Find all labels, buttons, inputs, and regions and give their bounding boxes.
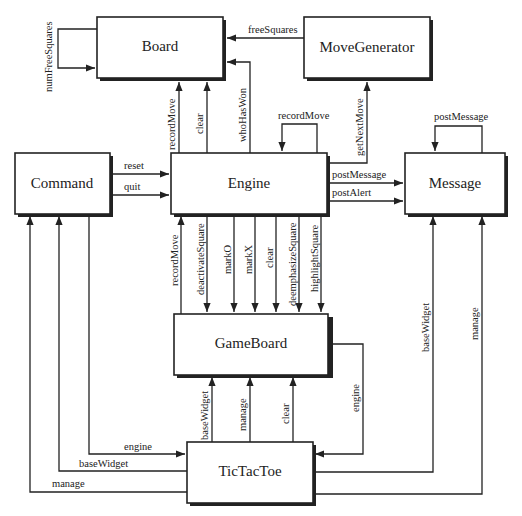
edge-movegen-board-freesquares: freeSquares [227, 24, 304, 38]
svg-text:recordMove: recordMove [278, 110, 330, 121]
svg-text:recordMove: recordMove [166, 98, 177, 150]
svg-text:manage: manage [237, 398, 248, 431]
edge-engine-board-clear: clear [194, 82, 207, 153]
edge-engine-movegen-getnextmove: getNextMove [327, 82, 367, 163]
edge-tictactoe-gameboard-basewidget: baseWidget [199, 377, 212, 442]
svg-text:getNextMove: getNextMove [354, 98, 365, 156]
edge-engine-gameboard-clear: clear [264, 214, 276, 312]
svg-text:baseWidget: baseWidget [79, 458, 128, 469]
node-message: Message [405, 153, 508, 217]
svg-text:clear: clear [280, 403, 291, 424]
node-tictactoe: TicTacToe [187, 442, 316, 506]
svg-text:baseWidget: baseWidget [199, 391, 210, 440]
edge-tictactoe-gameboard-clear: clear [280, 377, 293, 442]
svg-text:numFreeSquares: numFreeSquares [43, 21, 54, 92]
svg-text:highlightSquare: highlightSquare [309, 225, 320, 292]
svg-text:Command: Command [31, 175, 94, 191]
edge-engine-gameboard-deactivatesquare: deactivateSquare [195, 214, 207, 312]
collaboration-diagram: numFreeSquares freeSquares recordMove cl… [0, 0, 522, 516]
svg-text:Board: Board [142, 38, 179, 54]
svg-text:engine: engine [124, 441, 152, 452]
svg-text:reset: reset [124, 160, 144, 171]
edge-board-numfreesquares: numFreeSquares [43, 21, 97, 92]
svg-text:postAlert: postAlert [332, 187, 371, 198]
edge-tictactoe-gameboard-manage: manage [237, 377, 250, 442]
svg-text:Message: Message [429, 175, 482, 191]
edge-engine-message-postmessage: postMessage [327, 169, 403, 183]
node-board: Board [97, 17, 226, 81]
svg-text:markX: markX [243, 244, 254, 274]
svg-text:clear: clear [264, 247, 275, 268]
node-engine: Engine [171, 153, 330, 217]
svg-text:clear: clear [194, 113, 205, 134]
svg-text:whoHasWon: whoHasWon [237, 87, 248, 142]
node-gameboard: GameBoard [174, 314, 333, 378]
svg-text:MoveGenerator: MoveGenerator [320, 39, 415, 55]
edge-message-postmessage-self: postMessage [434, 111, 489, 153]
node-command: Command [15, 153, 113, 217]
svg-text:engine: engine [350, 384, 361, 412]
svg-text:Engine: Engine [228, 175, 271, 191]
edge-tictactoe-message-manage: manage [313, 216, 482, 494]
svg-text:GameBoard: GameBoard [215, 335, 288, 351]
svg-text:manage: manage [469, 307, 480, 340]
svg-text:deemphasizeSquare: deemphasizeSquare [287, 222, 298, 306]
svg-text:baseWidget: baseWidget [420, 303, 431, 352]
edge-command-engine-quit: quit [110, 181, 169, 195]
svg-text:TicTacToe: TicTacToe [218, 463, 282, 479]
edge-engine-board-recordmove: recordMove [166, 82, 179, 153]
edge-engine-board-whohaswon: whoHasWon [227, 62, 250, 153]
edge-tictactoe-command-manage: manage [30, 216, 187, 492]
edge-engine-message-postalert: postAlert [327, 187, 403, 201]
svg-text:quit: quit [124, 181, 140, 192]
edge-engine-gameboard-marko: markO [222, 214, 234, 312]
svg-text:deactivateSquare: deactivateSquare [195, 223, 206, 295]
edge-engine-gameboard-highlightsquare: highlightSquare [309, 214, 321, 312]
svg-text:recordMove: recordMove [169, 234, 180, 286]
edge-engine-gameboard-deemphasizesquare: deemphasizeSquare [287, 214, 299, 312]
svg-text:freeSquares: freeSquares [248, 24, 298, 35]
edge-tictactoe-command-basewidget: baseWidget [59, 216, 187, 471]
edge-command-engine-reset: reset [110, 160, 169, 174]
edge-engine-gameboard-markx: markX [243, 214, 255, 312]
svg-text:manage: manage [52, 478, 85, 489]
edge-gameboard-engine-recordmove: recordMove [169, 216, 181, 314]
svg-text:postMessage: postMessage [332, 169, 387, 180]
svg-text:postMessage: postMessage [434, 111, 489, 122]
node-movegenerator: MoveGenerator [304, 17, 433, 81]
svg-text:markO: markO [222, 244, 233, 274]
edge-engine-recordmove-self: recordMove [278, 110, 330, 153]
